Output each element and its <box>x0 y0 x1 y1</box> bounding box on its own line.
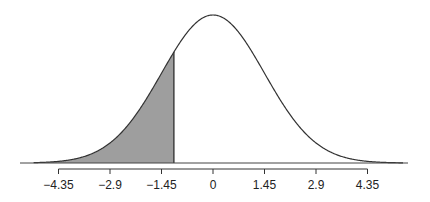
normal-distribution-chart: −4.35−2.9−1.4501.452.94.35 <box>0 0 430 202</box>
x-tick-label: 2.9 <box>308 178 325 192</box>
x-tick-label: 4.35 <box>356 178 380 192</box>
x-tick-label: −1.45 <box>146 178 177 192</box>
density-curve-path <box>34 15 403 163</box>
x-tick-label: 0 <box>210 178 217 192</box>
shaded-area <box>34 52 174 163</box>
x-tick-label: −2.9 <box>98 178 122 192</box>
x-tick-label: −4.35 <box>43 178 74 192</box>
density-curve <box>34 15 403 163</box>
shaded-left-tail <box>34 52 174 163</box>
x-axis: −4.35−2.9−1.4501.452.94.35 <box>43 169 379 192</box>
x-tick-label: 1.45 <box>253 178 277 192</box>
